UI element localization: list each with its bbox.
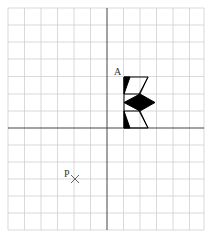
coordinate-grid [0, 0, 211, 232]
flag-shape [124, 77, 155, 128]
top-black-triangle [124, 77, 130, 94]
black-diamond [124, 94, 155, 111]
grid-lines [8, 8, 204, 230]
point-p-label: P [64, 169, 70, 179]
vertex-a-label: A [114, 67, 121, 77]
axes [8, 8, 204, 230]
bottom-black-triangle [124, 111, 130, 128]
